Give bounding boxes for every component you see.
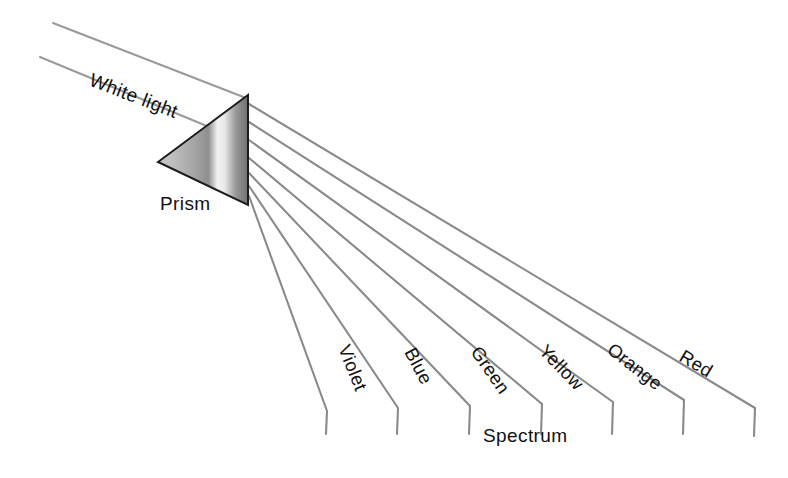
diagram-background — [0, 0, 788, 478]
spectrum-label: Spectrum — [483, 425, 568, 446]
prism-label: Prism — [160, 193, 211, 214]
prism-spectrum-diagram: White light Prism Spectrum VioletBlueGre… — [0, 0, 788, 478]
diagram-canvas: White light Prism Spectrum VioletBlueGre… — [0, 0, 788, 478]
